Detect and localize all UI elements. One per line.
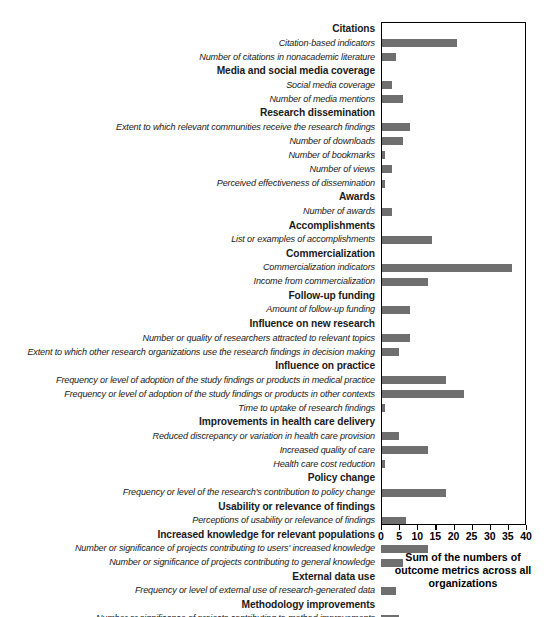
bar [381,446,428,454]
bar [381,165,392,173]
bar-cell [381,317,556,331]
bar-cell [381,78,556,92]
bar-cell [381,177,556,191]
bar-cell [381,443,556,457]
metric-label: Commercialization indicators [0,263,381,272]
chart-group-row: Usability or relevance of findings [0,500,556,514]
metric-label: Extent to which other research organizat… [0,348,381,357]
metric-label: Increased quality of care [0,446,381,455]
group-label: Follow-up funding [0,291,381,301]
x-tick-label: 20 [448,531,460,542]
bar-cell [381,134,556,148]
x-tick-label: 30 [484,531,496,542]
x-tick-label: 15 [430,531,442,542]
chart-metric-row: Number of awards [0,205,556,219]
bar [381,517,406,525]
group-label: Influence on new research [0,319,381,329]
metric-label: Reduced discrepancy or variation in heal… [0,432,381,441]
chart-group-row: Accomplishments [0,219,556,233]
bar-cell [381,429,556,443]
bar-cell [381,345,556,359]
group-label: Methodology improvements [0,600,381,610]
axis-title-line-2: outcome metrics across all [395,564,532,576]
bar-cell [381,219,556,233]
x-tick-label: 0 [378,531,384,542]
bar-cell [381,36,556,50]
bar [381,95,403,103]
bar [381,432,399,440]
bar [381,489,446,497]
chart-group-row: Media and social media coverage [0,64,556,78]
bar [381,151,385,159]
metric-label: Number or significance of projects contr… [0,544,381,553]
bar-cell [381,331,556,345]
group-label: Citations [0,24,381,34]
chart-metric-row: Number of citations in nonacademic liter… [0,50,556,64]
metric-label: Time to uptake of research findings [0,404,381,413]
group-label: External data use [0,572,381,582]
bar [381,208,392,216]
chart-metric-row: Social media coverage [0,78,556,92]
bar [381,404,385,412]
axis-title-line-3: organizations [429,577,498,589]
bar-cell [381,289,556,303]
chart-metric-row: Health care cost reduction [0,457,556,471]
chart-metric-row: Income from commercialization [0,275,556,289]
metric-label: Number of citations in nonacademic liter… [0,53,381,62]
metric-label: Frequency or level of the research's con… [0,488,381,497]
chart-metric-row: Number or significance of projects contr… [0,612,556,617]
bar-cell [381,205,556,219]
group-label: Research dissemination [0,108,381,118]
group-label: Media and social media coverage [0,66,381,76]
bar-cell [381,106,556,120]
chart-metric-row: Extent to which relevant communities rec… [0,120,556,134]
metric-label: Frequency or level of adoption of the st… [0,390,381,399]
metric-label: Number or quality of researchers attract… [0,334,381,343]
chart-group-row: Methodology improvements [0,598,556,612]
metric-label: Number of views [0,165,381,174]
bar [381,348,399,356]
bar [381,278,428,286]
metric-label: Health care cost reduction [0,460,381,469]
bar-cell [381,598,556,612]
bar-cell [381,120,556,134]
chart-metric-row: Extent to which other research organizat… [0,345,556,359]
chart-group-row: Policy change [0,472,556,486]
chart-group-row: Influence on practice [0,359,556,373]
bar [381,264,512,272]
bar-cell [381,247,556,261]
metric-label: Frequency or level of adoption of the st… [0,376,381,385]
bar [381,376,446,384]
chart-metric-row: Frequency or level of the research's con… [0,486,556,500]
bar-cell [381,612,556,617]
bar-cell [381,275,556,289]
bar-cell [381,500,556,514]
metric-label: Citation-based indicators [0,39,381,48]
x-axis-title: Sum of the numbers of outcome metrics ac… [370,551,556,591]
metric-label: Number of downloads [0,137,381,146]
x-tick-label: 25 [466,531,478,542]
bar-cell [381,22,556,36]
group-label: Commercialization [0,249,381,259]
bar-cell [381,162,556,176]
chart-metric-row: Number of media mentions [0,92,556,106]
chart-group-row: Research dissemination [0,106,556,120]
x-tick-label: 35 [502,531,514,542]
chart-metric-row: Number of views [0,162,556,176]
bar-cell [381,64,556,78]
group-label: Accomplishments [0,221,381,231]
bar [381,390,464,398]
group-label: Usability or relevance of findings [0,502,381,512]
bar-cell [381,415,556,429]
chart-group-row: Influence on new research [0,317,556,331]
metric-label: Amount of follow-up funding [0,305,381,314]
metric-label: Perceived effectiveness of dissemination [0,179,381,188]
bar-cell [381,233,556,247]
bar [381,306,410,314]
metric-label: Perceptions of usability or relevance of… [0,516,381,525]
chart-metric-row: Number of downloads [0,134,556,148]
bar-cell [381,261,556,275]
bar [381,236,432,244]
chart-metric-row: Reduced discrepancy or variation in heal… [0,429,556,443]
metric-label: Income from commercialization [0,277,381,286]
